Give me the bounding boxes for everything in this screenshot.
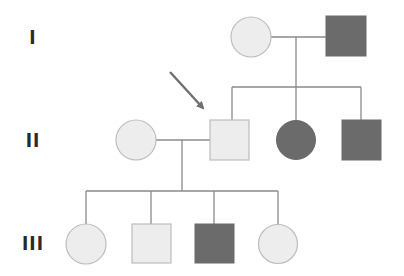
individual-ii-1-unaffected-female [116, 120, 156, 160]
individual-i-1-unaffected-female [231, 17, 271, 57]
individual-i-2-affected-male [326, 16, 366, 56]
pedigree-chart [0, 0, 404, 276]
individual-ii-4-affected-male [342, 120, 381, 160]
individual-ii-3-affected-female [277, 121, 316, 160]
individual-iii-3-affected-male [195, 224, 234, 263]
individual-iii-2-unaffected-male [132, 224, 171, 263]
proband-arrow-icon [170, 72, 203, 108]
individual-iii-4-unaffected-female [259, 225, 298, 264]
individual-iii-1-unaffected-female [66, 224, 106, 264]
individual-ii-2-proband-unaffected-male [210, 120, 249, 160]
